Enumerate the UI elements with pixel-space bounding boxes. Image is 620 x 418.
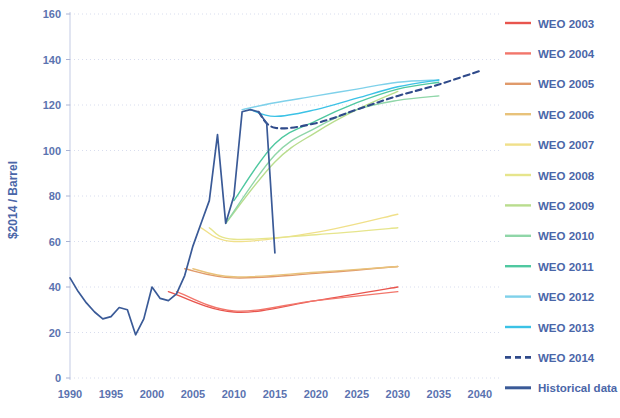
y-tick-label: 20 <box>49 327 61 339</box>
legend-label: WEO 2008 <box>538 170 595 182</box>
y-tick-label: 120 <box>43 99 61 111</box>
x-tick-labels: 1990199520002005201020152020202520302035… <box>58 388 492 400</box>
x-tick-label: 2020 <box>304 388 328 400</box>
oil-price-projection-chart: 020406080100120140160 199019952000200520… <box>0 0 620 418</box>
legend-label: WEO 2012 <box>538 291 594 303</box>
y-tick-label: 100 <box>43 145 61 157</box>
y-tick-label: 140 <box>43 54 61 66</box>
x-tick-label: 1995 <box>99 388 123 400</box>
x-tick-label: 2030 <box>386 388 410 400</box>
legend-label: WEO 2014 <box>538 352 595 364</box>
y-tick-label: 40 <box>49 281 61 293</box>
x-tick-label: 1990 <box>58 388 82 400</box>
y-axis-label: $2014 / Barrel <box>6 161 20 239</box>
y-tick-label: 0 <box>55 372 61 384</box>
x-tick-label: 2010 <box>222 388 246 400</box>
x-tick-label: 2035 <box>427 388 451 400</box>
x-tick-label: 2040 <box>468 388 492 400</box>
x-tick-label: 2015 <box>263 388 287 400</box>
y-tick-label: 80 <box>49 190 61 202</box>
legend-label: WEO 2006 <box>538 109 594 121</box>
legend-label: WEO 2005 <box>538 78 595 90</box>
y-tick-label: 60 <box>49 236 61 248</box>
legend-label: WEO 2013 <box>538 322 594 334</box>
legend-label: WEO 2003 <box>538 18 594 30</box>
legend-label: WEO 2010 <box>538 230 594 242</box>
x-tick-label: 2005 <box>181 388 205 400</box>
legend-label: Historical data <box>538 382 618 394</box>
legend-label: WEO 2007 <box>538 139 594 151</box>
y-tick-label: 160 <box>43 8 61 20</box>
legend-label: WEO 2011 <box>538 261 594 273</box>
legend-label: WEO 2004 <box>538 48 595 60</box>
chart-background <box>0 0 620 418</box>
x-tick-label: 2000 <box>140 388 164 400</box>
legend-label: WEO 2009 <box>538 200 594 212</box>
x-tick-label: 2025 <box>345 388 369 400</box>
